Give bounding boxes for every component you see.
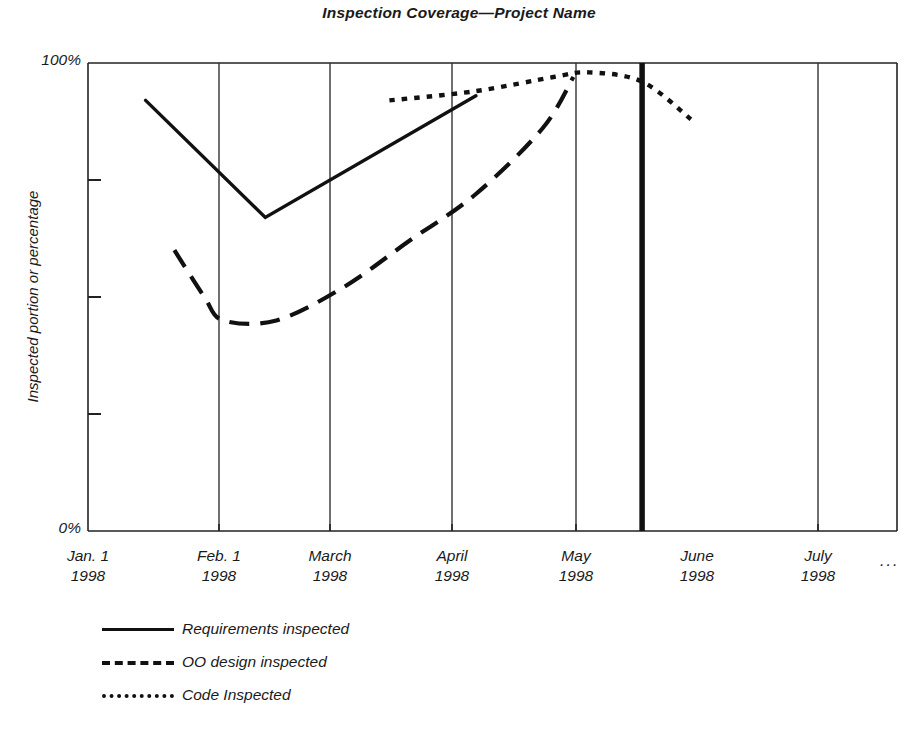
legend-label-oo-design: OO design inspected [180,653,327,671]
y-axis-minor-ticks [88,180,101,414]
x-axis-tick-july-month: July [758,546,878,566]
x-axis-tick-feb-year: 1998 [159,566,279,586]
legend-item-requirements: Requirements inspected [96,612,556,645]
legend-swatch-dashed-line-icon [96,655,180,669]
legend-label-requirements: Requirements inspected [180,620,349,638]
x-axis-tick-march-year: 1998 [270,566,390,586]
x-axis-tick-jan-year: 1998 [28,566,148,586]
x-axis-tick-june: June 1998 [637,546,757,586]
x-axis-tick-june-year: 1998 [637,566,757,586]
legend-label-code: Code Inspected [180,686,291,704]
x-axis-continues-ellipsis: ... [880,552,899,570]
x-axis-tick-june-month: June [637,546,757,566]
x-axis-tick-jan-month: Jan. 1 [28,546,148,566]
x-axis-tick-may-month: May [516,546,636,566]
plot-frame [88,63,897,531]
chart-legend: Requirements inspected OO design inspect… [96,612,556,711]
x-axis-tick-may: May 1998 [516,546,636,586]
x-axis-tick-feb: Feb. 1 1998 [159,546,279,586]
legend-item-oo-design: OO design inspected [96,645,556,678]
x-axis-tick-may-year: 1998 [516,566,636,586]
chart-figure: Inspection Coverage—Project Name Inspect… [0,0,918,744]
x-axis-tick-april: April 1998 [392,546,512,586]
vertical-gridlines [219,63,818,531]
legend-swatch-dotted-line-icon [96,688,180,702]
series-line-code-inspected [389,72,691,119]
series-line-oo-design-inspected [174,77,573,324]
legend-swatch-solid-line-icon [96,622,180,636]
x-axis-tick-march: March 1998 [270,546,390,586]
data-series-group [146,72,691,324]
x-axis-tick-july-year: 1998 [758,566,878,586]
x-axis-tick-feb-month: Feb. 1 [159,546,279,566]
legend-item-code: Code Inspected [96,678,556,711]
x-axis-tick-april-year: 1998 [392,566,512,586]
x-axis-tick-march-month: March [270,546,390,566]
x-axis-ticks [219,524,818,531]
series-line-requirements-inspected [146,96,476,218]
x-axis-tick-april-month: April [392,546,512,566]
x-axis-tick-july: July 1998 [758,546,878,586]
x-axis-tick-jan: Jan. 1 1998 [28,546,148,586]
